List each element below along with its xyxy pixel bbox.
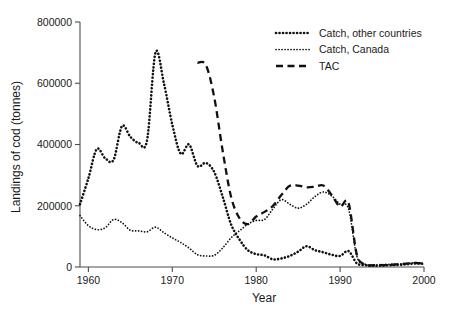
x-tick-label: 1990 bbox=[328, 274, 352, 286]
y-tick-label: 400000 bbox=[37, 138, 72, 150]
chart-canvas: 0200000400000600000800000 19601970198019… bbox=[0, 0, 453, 314]
x-tick-label: 1960 bbox=[77, 274, 101, 286]
legend-label: Catch, Canada bbox=[319, 43, 389, 55]
x-tick-label: 1980 bbox=[245, 274, 269, 286]
x-tick-label: 2000 bbox=[412, 274, 436, 286]
y-tick-label: 800000 bbox=[37, 16, 72, 28]
series-3 bbox=[197, 62, 424, 266]
y-axis-tick-labels: 0200000400000600000800000 bbox=[37, 16, 72, 273]
series-1 bbox=[80, 51, 424, 266]
y-tick-label: 200000 bbox=[37, 200, 72, 212]
series-2 bbox=[80, 192, 424, 265]
x-axis-ticks bbox=[88, 267, 424, 272]
x-axis-tick-labels: 19601970198019902000 bbox=[77, 274, 436, 286]
y-axis-title: Landings of cod (tonnes) bbox=[9, 81, 23, 213]
x-axis-title: Year bbox=[252, 291, 276, 305]
y-axis-ticks bbox=[75, 22, 80, 267]
x-tick-label: 1970 bbox=[161, 274, 185, 286]
legend-label: TAC bbox=[319, 60, 340, 72]
cod-landings-figure: 0200000400000600000800000 19601970198019… bbox=[0, 0, 453, 314]
chart-legend: Catch, other countriesCatch, CanadaTAC bbox=[276, 27, 422, 72]
axis-group bbox=[75, 22, 424, 272]
series-layer bbox=[80, 51, 424, 266]
y-tick-label: 0 bbox=[66, 261, 72, 273]
y-tick-label: 600000 bbox=[37, 77, 72, 89]
legend-label: Catch, other countries bbox=[319, 27, 422, 39]
